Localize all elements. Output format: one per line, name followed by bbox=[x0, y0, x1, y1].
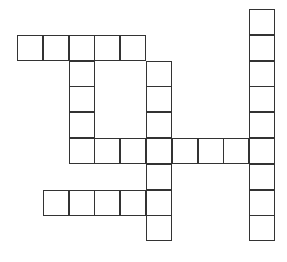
crossword-cell-r3-c2[interactable] bbox=[69, 86, 95, 112]
crossword-cell-r8-c5[interactable] bbox=[146, 215, 172, 241]
crossword-cell-r5-c5[interactable] bbox=[146, 138, 172, 164]
crossword-cell-r5-c2[interactable] bbox=[69, 138, 95, 164]
crossword-cell-r1-c0[interactable] bbox=[17, 35, 43, 61]
crossword-cell-r7-c9[interactable] bbox=[249, 190, 275, 216]
crossword-cell-r3-c5[interactable] bbox=[146, 86, 172, 112]
crossword-cell-r7-c1[interactable] bbox=[43, 190, 69, 216]
crossword-cell-r1-c3[interactable] bbox=[94, 35, 120, 61]
crossword-cell-r5-c6[interactable] bbox=[172, 138, 198, 164]
crossword-cell-r2-c9[interactable] bbox=[249, 61, 275, 87]
crossword-cell-r5-c4[interactable] bbox=[120, 138, 146, 164]
crossword-cell-r7-c4[interactable] bbox=[120, 190, 146, 216]
crossword-cell-r0-c9[interactable] bbox=[249, 9, 275, 35]
crossword-cell-r4-c2[interactable] bbox=[69, 112, 95, 138]
crossword-cell-r5-c7[interactable] bbox=[198, 138, 224, 164]
crossword-cell-r7-c3[interactable] bbox=[94, 190, 120, 216]
crossword-cell-r6-c9[interactable] bbox=[249, 164, 275, 190]
crossword-cell-r2-c5[interactable] bbox=[146, 61, 172, 87]
crossword-cell-r5-c9[interactable] bbox=[249, 138, 275, 164]
crossword-cell-r5-c8[interactable] bbox=[223, 138, 249, 164]
crossword-cell-r1-c2[interactable] bbox=[69, 35, 95, 61]
crossword-cell-r5-c3[interactable] bbox=[94, 138, 120, 164]
crossword-cell-r1-c4[interactable] bbox=[120, 35, 146, 61]
crossword-cell-r7-c5[interactable] bbox=[146, 190, 172, 216]
crossword-cell-r2-c2[interactable] bbox=[69, 61, 95, 87]
crossword-cell-r1-c9[interactable] bbox=[249, 35, 275, 61]
crossword-cell-r8-c9[interactable] bbox=[249, 215, 275, 241]
crossword-cell-r7-c2[interactable] bbox=[69, 190, 95, 216]
crossword-cell-r4-c5[interactable] bbox=[146, 112, 172, 138]
crossword-cell-r6-c5[interactable] bbox=[146, 164, 172, 190]
crossword-cell-r1-c1[interactable] bbox=[43, 35, 69, 61]
crossword-cell-r3-c9[interactable] bbox=[249, 86, 275, 112]
crossword-cell-r4-c9[interactable] bbox=[249, 112, 275, 138]
crossword-grid bbox=[0, 0, 287, 262]
